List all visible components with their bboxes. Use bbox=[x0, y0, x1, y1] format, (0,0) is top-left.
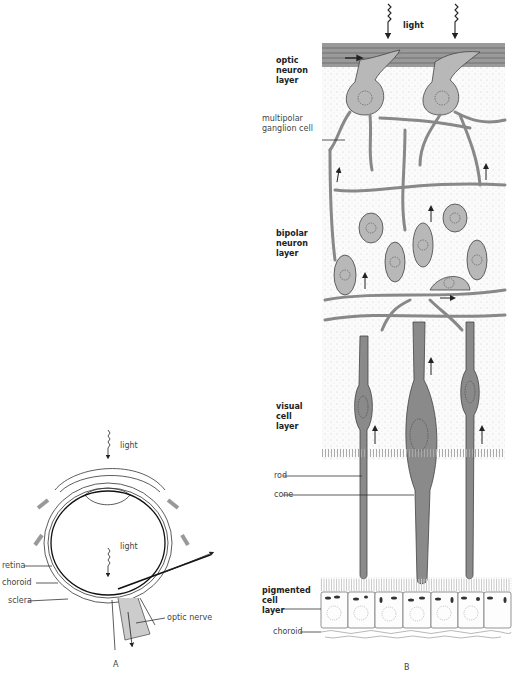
retina-diagram-figure bbox=[0, 0, 521, 674]
light-arrow-icon bbox=[388, 4, 458, 36]
label-choroid-b: choroid bbox=[273, 627, 303, 637]
label-optic-neuron-layer: optic neuron layer bbox=[276, 56, 308, 86]
choroid-layer bbox=[321, 631, 511, 639]
label-retina: retina bbox=[2, 561, 25, 571]
label-cone: cone bbox=[274, 490, 293, 500]
label-light-top: light bbox=[120, 441, 138, 451]
label-multipolar-ganglion-cell: multipolar ganglion cell bbox=[262, 114, 313, 134]
label-sclera: sclera bbox=[8, 596, 32, 606]
panel-letter-a: A bbox=[113, 660, 118, 669]
label-light-b: light bbox=[403, 21, 424, 31]
label-rod: rod bbox=[274, 471, 287, 481]
label-choroid-a: choroid bbox=[2, 578, 32, 588]
label-optic-nerve: optic nerve bbox=[167, 613, 212, 623]
label-pigmented-cell-layer: pigmented cell layer bbox=[262, 586, 311, 616]
label-light-inner: light bbox=[120, 542, 138, 552]
panel-b bbox=[283, 4, 511, 638]
panel-letter-b: B bbox=[404, 663, 410, 672]
pigmented-cells bbox=[321, 592, 511, 628]
label-visual-cell-layer: visual cell layer bbox=[276, 402, 303, 432]
optic-fiber-band bbox=[322, 43, 505, 67]
label-bipolar-neuron-layer: bipolar neuron layer bbox=[276, 229, 308, 259]
